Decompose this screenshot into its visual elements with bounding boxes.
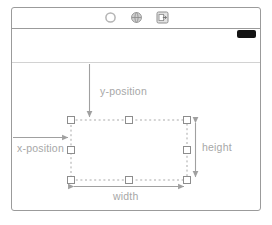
label-height: height xyxy=(202,141,232,153)
label-x-position: x-position xyxy=(17,142,64,154)
content-divider xyxy=(12,62,260,63)
label-y-position: y-position xyxy=(100,85,147,97)
label-width: width xyxy=(113,190,139,202)
black-pill-swatch[interactable] xyxy=(237,30,256,38)
app-window-frame xyxy=(11,7,261,211)
window-toolbar xyxy=(11,7,261,29)
globe-icon[interactable] xyxy=(130,11,143,24)
export-icon[interactable] xyxy=(156,11,169,24)
toolbar-icon-group xyxy=(11,7,261,28)
circle-icon[interactable] xyxy=(104,11,117,24)
screenshot-canvas: y-position x-position height width xyxy=(0,0,272,225)
